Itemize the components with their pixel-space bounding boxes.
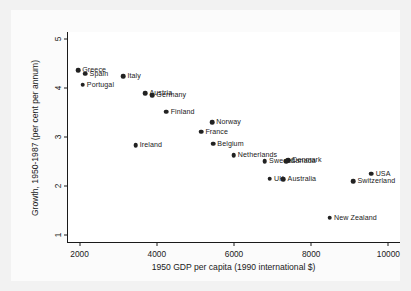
data-point — [76, 68, 81, 73]
x-tick-label: 8000 — [302, 249, 320, 259]
data-point — [263, 159, 268, 164]
x-axis-label: 1950 GDP per capita (1990 international … — [67, 262, 400, 272]
x-tick — [156, 242, 157, 246]
data-point-label: Spain — [90, 70, 109, 78]
x-tick-label: 2000 — [70, 249, 88, 259]
y-axis-label-text: Growth, 1950-1987 (per cent per annum) — [30, 59, 40, 215]
y-tick-label: 3 — [53, 135, 63, 140]
data-point — [150, 93, 155, 98]
data-point-label: Canada — [290, 157, 315, 165]
x-tick-label: 4000 — [148, 249, 166, 259]
data-point — [351, 179, 356, 184]
data-point — [199, 129, 204, 134]
data-point-label: Portugal — [87, 81, 114, 89]
y-tick — [64, 185, 68, 186]
data-point — [268, 176, 273, 181]
y-tick — [64, 88, 68, 89]
y-tick — [64, 39, 68, 40]
x-tick — [79, 242, 80, 246]
x-tick — [234, 242, 235, 246]
scatter-plot-figure: GreeceSpainPortugalItalyAustriaGermanyFi… — [0, 0, 411, 291]
data-point — [164, 109, 169, 114]
x-tick-label: 10000 — [377, 249, 400, 259]
y-axis-label: Growth, 1950-1987 (per cent per annum) — [29, 32, 41, 243]
y-tick-label: 2 — [53, 184, 63, 189]
data-point-label: Finland — [171, 108, 195, 116]
data-point — [83, 71, 88, 76]
x-tick — [311, 242, 312, 246]
data-point-label: Switzerland — [357, 177, 395, 185]
data-point — [133, 143, 138, 148]
data-point — [121, 74, 126, 79]
data-point — [210, 120, 215, 125]
data-point — [369, 171, 374, 176]
data-point-label: France — [205, 128, 228, 136]
x-tick — [388, 242, 389, 246]
y-tick-label: 1 — [53, 232, 63, 237]
data-point — [211, 142, 216, 147]
data-point — [281, 177, 286, 182]
y-tick-label: 5 — [53, 37, 63, 42]
data-point-label: Ireland — [140, 141, 162, 149]
data-point — [143, 91, 148, 96]
data-point-label: Italy — [127, 72, 141, 80]
data-point-label: Belgium — [217, 140, 243, 148]
y-tick-label: 4 — [53, 86, 63, 91]
data-point-label: Norway — [216, 118, 241, 126]
data-point-label: Australia — [288, 175, 317, 183]
chart-canvas: GreeceSpainPortugalItalyAustriaGermanyFi… — [11, 10, 400, 281]
data-layer: GreeceSpainPortugalItalyAustriaGermanyFi… — [68, 32, 400, 242]
x-tick-label: 6000 — [225, 249, 243, 259]
y-tick — [64, 234, 68, 235]
data-point — [327, 215, 332, 220]
data-point — [80, 82, 85, 87]
data-point-label: New Zealand — [334, 214, 377, 222]
plot-area: GreeceSpainPortugalItalyAustriaGermanyFi… — [67, 32, 400, 243]
y-tick — [64, 137, 68, 138]
data-point — [231, 153, 236, 158]
data-point-label: Germany — [156, 91, 186, 99]
data-point — [284, 159, 289, 164]
